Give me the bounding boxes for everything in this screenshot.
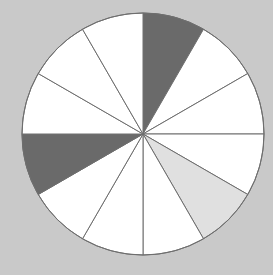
pie-chart-figure xyxy=(0,0,273,275)
pie-chart-svg xyxy=(0,0,273,275)
pie-slice-layer xyxy=(22,13,264,255)
